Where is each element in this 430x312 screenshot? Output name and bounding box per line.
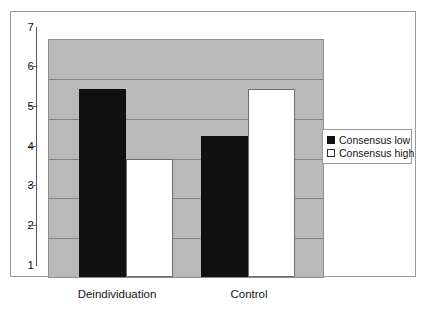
y-tick-mark-6 [28,66,36,67]
legend-swatch-filled-square-icon [327,136,335,144]
x-category-label-control: Control [199,288,299,301]
y-tick-mark-5 [28,106,36,107]
y-tick-mark-3 [28,185,36,186]
y-tick-mark-2 [28,225,36,226]
legend-label-consensus-low: Consensus low [339,135,410,146]
legend-item-consensus-high: Consensus high [327,147,407,159]
y-tick-label-7: 7 [14,21,34,33]
chart-legend: Consensus low Consensus high [322,129,412,164]
legend-label-consensus-high: Consensus high [339,148,414,159]
y-tick-label-1: 1 [14,259,34,271]
legend-item-consensus-low: Consensus low [327,134,407,146]
legend-swatch-outline-square-icon [327,149,335,157]
y-tick-mark-4 [28,146,36,147]
x-category-label-deindividuation: Deindividuation [57,288,177,301]
